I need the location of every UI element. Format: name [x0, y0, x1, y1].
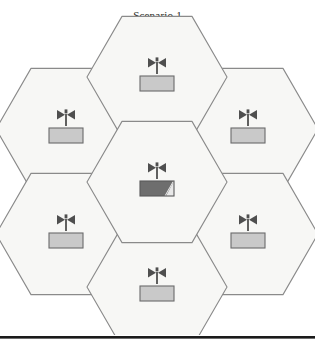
base-station-box — [231, 233, 265, 248]
base-station-box — [49, 128, 83, 143]
hexagonal-cell-layout — [0, 0, 315, 335]
footer-rule-thin — [0, 338, 315, 339]
base-station-box — [140, 286, 174, 301]
serving-base-station-box — [140, 181, 174, 196]
footer-divider — [0, 336, 315, 339]
base-station-box — [140, 76, 174, 91]
scenario-figure: Scenario 1 — [0, 0, 315, 349]
base-station-box — [231, 128, 265, 143]
base-station-box — [49, 233, 83, 248]
